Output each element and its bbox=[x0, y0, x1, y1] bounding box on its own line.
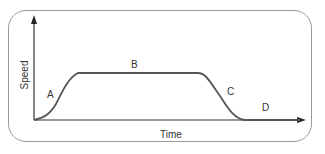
speed-curve bbox=[34, 73, 300, 120]
phase-label-d: D bbox=[262, 103, 269, 113]
y-axis-arrow-icon bbox=[31, 15, 37, 24]
phase-label-b: B bbox=[131, 60, 138, 70]
x-axis-label: Time bbox=[160, 130, 182, 140]
phase-label-a: A bbox=[47, 90, 54, 100]
phase-label-c: C bbox=[227, 87, 234, 97]
y-axis-label: Speed bbox=[20, 61, 30, 90]
